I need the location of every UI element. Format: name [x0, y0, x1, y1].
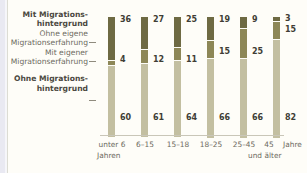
- bar-segment-with-own-experience: [207, 41, 214, 59]
- legend: Mit Migrations- hintergrund Ohne eigene …: [6, 10, 88, 93]
- legend-item-with-own-migration-experience: Mit eigener Migrationserfahrung: [6, 48, 88, 67]
- bar-segment-without-migration-background: [108, 66, 115, 137]
- bar-value-label: 27: [153, 15, 164, 24]
- bar-segment-without-migration-background: [174, 61, 181, 137]
- bar-value-label: 9: [252, 15, 258, 24]
- bar-value-label: 61: [153, 113, 164, 122]
- bar-segment-without-own-experience: [141, 17, 148, 49]
- x-tick-label-unter-6-line2: Jahren: [97, 151, 121, 160]
- bar-segment-without-migration-background: [207, 59, 214, 138]
- chart-figure: Mit Migrations- hintergrund Ohne eigene …: [0, 0, 307, 173]
- legend-spacer: [6, 66, 88, 74]
- bar-45-und-aelter[interactable]: [273, 17, 280, 136]
- bar-18-25[interactable]: [207, 17, 214, 136]
- bar-segment-without-own-experience: [207, 17, 214, 40]
- bar-value-label: 12: [153, 55, 164, 64]
- bar-segment-without-migration-background: [240, 59, 247, 138]
- bar-segment-without-own-experience: [240, 17, 247, 28]
- bar-6-15[interactable]: [141, 17, 148, 136]
- legend-group-without-migration-background: Ohne Migrations- hintergrund: [6, 74, 88, 93]
- legend-label-line: Mit Migrations-: [6, 10, 88, 19]
- legend-label-line: Mit eigener: [6, 48, 88, 57]
- bar-segment-with-own-experience: [273, 22, 280, 40]
- plot-area: 36 4 60 27 12 61 25 11 64: [100, 16, 300, 136]
- bar-value-label: 60: [120, 113, 131, 122]
- bar-value-label: 66: [252, 113, 263, 122]
- legend-group-with-migration-background: Mit Migrations- hintergrund: [6, 10, 88, 29]
- bar-segment-without-own-experience: [108, 17, 115, 60]
- x-tick-label-45: 45: [258, 140, 280, 149]
- legend-label-line: Migrationserfahrung: [6, 38, 88, 47]
- bar-value-label: 19: [219, 15, 230, 24]
- bar-segment-without-own-experience: [174, 17, 181, 47]
- legend-tick-mark: [89, 100, 96, 101]
- legend-label-line: Ohne Migrations-: [6, 74, 88, 83]
- legend-item-without-own-migration-experience: Ohne eigene Migrationserfahrung: [6, 29, 88, 48]
- bar-segment-with-own-experience: [174, 48, 181, 60]
- x-axis-line: [100, 135, 284, 136]
- legend-label-line: Migrationserfahrung: [6, 57, 88, 66]
- legend-tick-mark: [89, 61, 96, 62]
- bar-value-label: 25: [186, 15, 197, 24]
- bar-value-label: 82: [285, 113, 296, 122]
- bar-segment-with-own-experience: [141, 50, 148, 63]
- bar-value-label: 11: [186, 55, 197, 64]
- bar-value-label: 4: [120, 55, 126, 64]
- bar-value-label: 15: [285, 25, 296, 34]
- legend-label-line: hintergrund: [6, 19, 88, 28]
- bar-segment-without-migration-background: [141, 64, 148, 137]
- bar-segment-with-own-experience: [240, 29, 247, 59]
- bar-segment-without-migration-background: [273, 40, 280, 138]
- bar-15-18[interactable]: [174, 17, 181, 136]
- legend-label-line: Ohne eigene: [6, 29, 88, 38]
- legend-tick-mark: [89, 42, 96, 43]
- bar-25-45[interactable]: [240, 17, 247, 136]
- x-tick-label-45-line2: und älter: [248, 151, 281, 160]
- bar-value-label: 3: [285, 14, 291, 23]
- bar-value-label: 15: [219, 47, 230, 56]
- bar-unter-6-jahren[interactable]: [108, 17, 115, 136]
- bar-value-label: 64: [186, 113, 197, 122]
- bar-value-label: 25: [252, 47, 263, 56]
- legend-label-line: hintergrund: [6, 84, 88, 93]
- bar-value-label: 66: [219, 113, 230, 122]
- x-axis-unit-label: Jahre: [283, 140, 302, 149]
- bar-value-label: 36: [120, 15, 131, 24]
